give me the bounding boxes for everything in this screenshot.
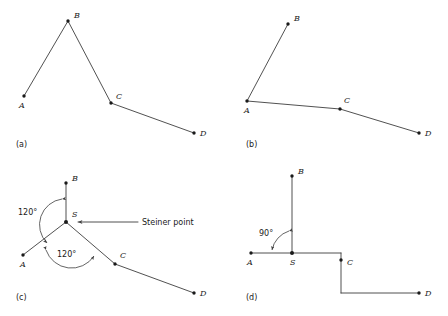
panel-a-label-d: D [199, 129, 207, 138]
panel-b-node-a [245, 99, 248, 102]
panel-d-label-c: C [347, 258, 353, 267]
panel-a-node-a [22, 94, 25, 97]
panel-c-label-b: B [71, 174, 78, 183]
panel-c-label-d: D [199, 289, 207, 298]
panel-c-node-s [64, 220, 68, 224]
panel-c-angle-label-upper: 120° [18, 208, 37, 217]
panel-b: A B C D (b) [243, 14, 432, 149]
panel-d-label-b: B [297, 167, 304, 176]
panel-c-label-a: A [19, 260, 26, 269]
panel-a-label-b: B [73, 11, 80, 20]
panel-a-node-b [66, 19, 69, 22]
panel-d-node-a [249, 251, 252, 254]
panel-c-node-b [64, 181, 67, 184]
panel-d-node-d [417, 291, 420, 294]
panel-a-edge-cd [111, 103, 194, 133]
panel-d-label-s: S [290, 258, 296, 267]
panel-b-label-b: B [293, 14, 300, 23]
panel-b-label-d: D [424, 129, 432, 138]
panel-c-angle-label-lower: 120° [57, 250, 76, 259]
panel-d-caption: (d) [246, 293, 257, 302]
panel-c: B S A C D 120° 120° Steiner point (c) [16, 174, 207, 302]
panel-d-node-b [290, 174, 293, 177]
panel-a-edge-ab [24, 21, 68, 96]
panel-a: A B C D (a) [16, 11, 207, 149]
panel-c-caption: (c) [16, 293, 27, 302]
panel-d: B A S C D 90° (d) [246, 167, 432, 302]
panel-a-node-c [109, 101, 112, 104]
panel-d-angle-label: 90° [259, 229, 273, 238]
panel-b-label-a: A [243, 106, 250, 115]
panel-a-label-a: A [18, 101, 25, 110]
panel-b-node-d [417, 131, 420, 134]
panel-b-edge-cd [340, 109, 419, 133]
panel-c-node-d [192, 291, 195, 294]
panel-c-label-s: S [72, 210, 78, 219]
panel-b-node-b [286, 22, 289, 25]
panel-b-edge-ac [247, 101, 340, 109]
steiner-point-figure: A B C D (a) A B C D (b) [0, 0, 448, 316]
panel-c-edge-cd [115, 264, 194, 293]
panel-a-caption: (a) [16, 140, 27, 149]
panel-c-steiner-point-callout: Steiner point [142, 218, 194, 227]
panel-b-node-c [338, 107, 341, 110]
panel-a-label-c: C [116, 92, 122, 101]
panel-c-angle-arc-upper [40, 199, 62, 243]
panel-a-edge-bc [68, 21, 111, 103]
panel-c-node-c [113, 262, 116, 265]
panel-d-node-s [290, 251, 294, 255]
panel-c-label-c: C [120, 251, 126, 260]
panel-a-node-d [192, 131, 195, 134]
panel-c-node-a [21, 253, 24, 256]
panel-b-caption: (b) [246, 140, 257, 149]
panel-d-label-a: A [246, 258, 253, 267]
panel-d-node-c [339, 258, 342, 261]
panel-d-angle-arc [272, 231, 289, 250]
panel-b-edge-ab [247, 24, 288, 101]
panel-d-label-d: D [424, 289, 432, 298]
panel-b-label-c: C [344, 96, 350, 105]
